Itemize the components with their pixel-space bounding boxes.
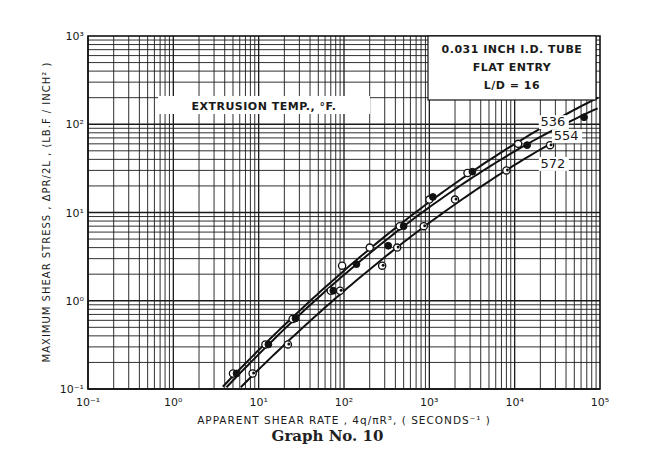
svg-text:10³: 10³ [66, 30, 84, 43]
y-axis-label: MAXIMUM SHEAR STRESS , ΔPR/2L , (LB.F / … [41, 62, 52, 363]
svg-text:554: 554 [554, 128, 579, 143]
svg-text:10³: 10³ [420, 396, 438, 409]
svg-text:10¹: 10¹ [249, 396, 267, 409]
curve-572 [241, 136, 565, 388]
svg-text:572: 572 [540, 156, 565, 171]
svg-text:10⁻¹: 10⁻¹ [60, 383, 84, 396]
svg-text:FLAT ENTRY: FLAT ENTRY [473, 61, 552, 74]
graph-caption: Graph No. 10 [0, 427, 655, 445]
svg-text:10⁰: 10⁰ [66, 295, 85, 308]
x-axis-label: APPARENT SHEAR RATE , 4q/πR³, ( SECONDS⁻… [197, 414, 491, 426]
info-box: 0.031 INCH I.D. TUBEFLAT ENTRYL/D = 16 [428, 36, 596, 100]
curve-labels: 536554572 [539, 114, 582, 171]
legend-title: EXTRUSION TEMP., °F. [158, 96, 370, 114]
svg-text:10⁻¹: 10⁻¹ [76, 396, 100, 409]
svg-text:10²: 10² [335, 396, 353, 409]
chart: 0.031 INCH I.D. TUBEFLAT ENTRYL/D = 16 E… [0, 0, 655, 475]
svg-text:10⁵: 10⁵ [591, 396, 609, 409]
x-tick-labels: 10⁻¹10⁰10¹10²10³10⁴10⁵ [76, 396, 609, 409]
y-tick-labels: 10⁻¹10⁰10¹10²10³ [60, 30, 85, 396]
svg-text:10⁰: 10⁰ [164, 396, 183, 409]
svg-text:10⁴: 10⁴ [505, 396, 524, 409]
svg-text:536: 536 [540, 114, 565, 129]
svg-text:0.031 INCH I.D. TUBE: 0.031 INCH I.D. TUBE [442, 43, 583, 56]
svg-text:10¹: 10¹ [66, 207, 84, 220]
svg-text:10²: 10² [66, 118, 84, 131]
svg-text:EXTRUSION TEMP., °F.: EXTRUSION TEMP., °F. [191, 100, 336, 113]
svg-text:L/D = 16: L/D = 16 [484, 79, 540, 92]
